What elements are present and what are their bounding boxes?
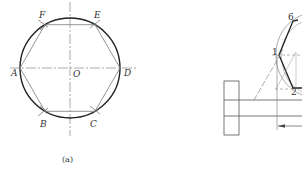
point-label-6: 6 [288, 12, 294, 22]
point-label-2: 2 [291, 87, 297, 97]
diagram-canvas: F E A O D B C (a) 6 1 2 [0, 0, 302, 174]
dimension-arrow [278, 124, 285, 127]
vertex-label-a: A [10, 68, 18, 78]
vertex-label-c: C [90, 119, 97, 129]
vertex-label-e: E [93, 10, 101, 20]
diagonal-construction [254, 50, 283, 100]
figure-a: F E A O D B C (a) [10, 2, 136, 164]
vertex-label-d: D [123, 68, 131, 78]
flange [224, 81, 239, 135]
vertex-label-f: F [38, 10, 46, 20]
figure-b: 6 1 2 [224, 12, 302, 135]
vertex-label-b: B [39, 119, 47, 129]
point-label-1: 1 [272, 47, 278, 57]
figure-caption-a: (a) [62, 155, 73, 164]
center-label-o: O [73, 69, 81, 79]
